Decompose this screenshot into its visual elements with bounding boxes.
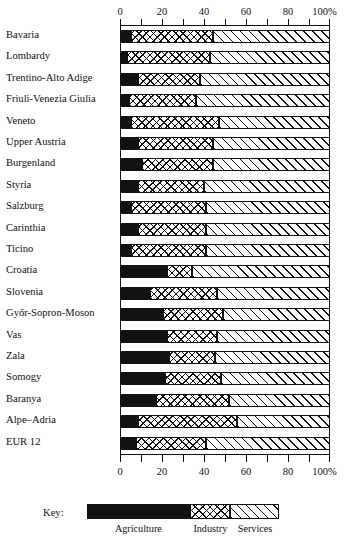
category-label: Győr-Sopron-Moson [6,307,118,319]
bar-segment-services [192,266,329,277]
bar-segment-agriculture [121,117,131,128]
bar-segment-agriculture [121,373,165,384]
stacked-bar [121,265,329,278]
bar-segment-services [217,288,329,299]
category-label: Vas [6,329,118,341]
bar-segment-industry [136,438,207,449]
bar-segment-agriculture [121,95,129,106]
bar-row [121,262,329,282]
stacked-bar [121,437,329,450]
bar-segment-industry [142,159,213,170]
axis-tick-mark [162,455,163,462]
bar-segment-services [219,117,329,128]
plot-area [120,25,330,455]
bar-segment-services [221,373,329,384]
bottom-axis-tick-labels: 020406080100% [120,464,330,480]
category-label: Upper Austria [6,136,118,148]
bar-row [121,48,329,68]
stacked-bar [121,287,329,300]
axis-tick-label: 20 [157,464,168,480]
stacked-bar [121,244,329,257]
bar-segment-services [204,181,329,192]
legend-swatch-industry [190,505,231,518]
bar-segment-industry [138,416,238,427]
bar-row [121,284,329,304]
category-label: Croatia [6,264,118,276]
bar-segment-industry [165,373,221,384]
category-label: Zala [6,350,118,362]
top-axis-tick-labels: 020406080100% [120,4,330,20]
bar-row [121,70,329,90]
axis-tick-mark [141,455,142,462]
axis-tick-mark [246,455,247,462]
bar-segment-services [213,159,329,170]
bar-segment-industry [169,352,215,363]
category-label: Salzburg [6,200,118,212]
bar-segment-services [210,52,329,63]
bar-segment-agriculture [121,138,138,149]
bar-segment-services [213,138,329,149]
bar-segment-services [206,224,329,235]
legend-label-agriculture: Agriculture [115,523,162,535]
bar-segment-industry [131,31,212,42]
bar-segment-industry [156,395,229,406]
axis-tick-label: 60 [241,464,252,480]
bar-row [121,348,329,368]
bar-segment-services [200,74,329,85]
bar-segment-industry [150,288,217,299]
bar-segment-services [223,309,329,320]
category-label: Burgenland [6,157,118,169]
category-label: Baranya [6,393,118,405]
bar-segment-agriculture [121,266,167,277]
bar-row [121,434,329,454]
bar-row [121,27,329,47]
bar-segment-services [215,352,329,363]
axis-tick-label: 40 [199,464,210,480]
category-label: Carinthia [6,222,118,234]
bar-segment-services [229,395,329,406]
stacked-bar [121,73,329,86]
stacked-bar [121,308,329,321]
bar-segment-industry [167,266,192,277]
stacked-bar [121,180,329,193]
axis-tick-mark [329,455,330,462]
bar-row [121,91,329,111]
stacked-bar [121,116,329,129]
category-label: Styria [6,179,118,191]
axis-tick-label: 80 [283,464,294,480]
axis-tick-mark [267,455,268,462]
axis-tick-label: 60 [241,4,252,20]
bar-segment-industry [127,52,210,63]
bar-segment-industry [138,74,200,85]
bar-row [121,155,329,175]
stacked-bar [121,415,329,428]
axis-tick-mark [120,455,121,462]
stacked-bar [121,158,329,171]
bar-row [121,412,329,432]
bar-segment-agriculture [121,352,169,363]
legend-swatch-services [230,505,278,518]
stacked-bar [121,330,329,343]
legend-title: Key: [43,506,64,520]
bar-segment-agriculture [121,245,131,256]
bar-row [121,113,329,133]
category-label: Trentino-Alto Adige [6,72,118,84]
stacked-bar [121,351,329,364]
legend-label-industry: Industry [193,523,227,535]
bar-segment-agriculture [121,309,163,320]
axis-tick-label: 80 [283,4,294,20]
bar-segment-services [237,416,329,427]
bar-segment-agriculture [121,438,136,449]
bar-segment-agriculture [121,224,138,235]
bar-row [121,305,329,325]
bar-segment-industry [138,181,205,192]
axis-tick-mark [225,455,226,462]
axis-tick-label: 0 [117,4,122,20]
stacked-bar [121,30,329,43]
stacked-bar [121,137,329,150]
bar-segment-services [217,331,329,342]
axis-tick-mark [204,455,205,462]
category-label: Friuli-Venezia Giulia [6,93,118,105]
bar-row [121,134,329,154]
bar-segment-services [206,245,329,256]
